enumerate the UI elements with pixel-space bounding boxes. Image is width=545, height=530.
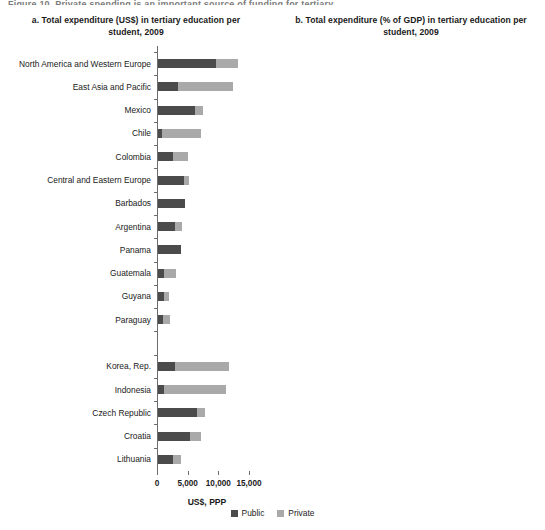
- y-tick: [154, 355, 158, 356]
- chart-legend: PublicPrivate: [0, 508, 545, 518]
- x-tick: [218, 471, 219, 475]
- bar-row: Mexico: [157, 106, 257, 115]
- y-tick: [154, 52, 158, 53]
- y-tick: [154, 145, 158, 146]
- category-label: East Asia and Pacific: [73, 82, 151, 91]
- y-tick: [154, 285, 158, 286]
- bar-segment-public: [158, 106, 195, 115]
- category-label: Guatemala: [110, 269, 151, 278]
- bar-row: Paraguay: [157, 315, 257, 324]
- y-tick: [154, 308, 158, 309]
- y-tick: [154, 424, 158, 425]
- x-tick: [249, 471, 250, 475]
- x-tick-label: 0: [155, 479, 160, 488]
- y-tick: [154, 378, 158, 379]
- category-label: Czech Republic: [92, 408, 151, 417]
- figure-container: Figure 10. Private spending is an import…: [0, 0, 545, 530]
- y-tick: [154, 168, 158, 169]
- category-label: Croatia: [124, 432, 151, 441]
- y-tick: [154, 401, 158, 402]
- legend-item-private: Private: [277, 508, 314, 518]
- bar-row: Korea, Rep.: [157, 362, 257, 371]
- category-label: Korea, Rep.: [106, 362, 151, 371]
- bar-segment-private: [173, 455, 181, 464]
- chart-a-title: a. Total expenditure (US$) in tertiary e…: [18, 14, 254, 39]
- y-tick: [154, 75, 158, 76]
- bar-row: Lithuania: [157, 455, 257, 464]
- bar-segment-private: [162, 129, 200, 138]
- category-label: Panama: [120, 245, 151, 254]
- category-label: Guyana: [122, 292, 151, 301]
- bar-row: Czech Republic: [157, 408, 257, 417]
- x-tick: [188, 471, 189, 475]
- bar-segment-private: [164, 292, 168, 301]
- y-tick: [154, 99, 158, 100]
- chart-b-title: b. Total expenditure (% of GDP) in terti…: [288, 14, 534, 39]
- y-tick: [154, 238, 158, 239]
- bar-segment-private: [184, 176, 189, 185]
- bar-row: Central and Eastern Europe: [157, 176, 257, 185]
- category-label: Colombia: [116, 152, 151, 161]
- bar-segment-public: [158, 59, 216, 68]
- x-tick-label: 5,000: [177, 479, 198, 488]
- y-tick: [154, 192, 158, 193]
- bar-row: Barbados: [157, 199, 257, 208]
- bar-segment-private: [197, 408, 204, 417]
- category-label: Argentina: [115, 222, 151, 231]
- x-tick: [157, 471, 158, 475]
- category-label: Chile: [132, 129, 151, 138]
- category-label: Barbados: [115, 199, 151, 208]
- category-label: Central and Eastern Europe: [47, 176, 151, 185]
- legend-item-public: Public: [231, 508, 265, 518]
- bar-segment-private: [164, 385, 226, 394]
- chart-a-plot-area: 05,00010,00015,000North America and West…: [157, 46, 257, 471]
- bar-segment-private: [216, 59, 238, 68]
- y-tick: [154, 448, 158, 449]
- bar-row: North America and Western Europe: [157, 59, 257, 68]
- category-label: North America and Western Europe: [19, 59, 151, 68]
- bar-row: Guatemala: [157, 269, 257, 278]
- category-label: Indonesia: [115, 385, 151, 394]
- bar-segment-private: [190, 432, 202, 441]
- legend-label: Private: [288, 508, 314, 518]
- x-tick-label: 15,000: [236, 479, 261, 488]
- chart-panel-b: b. Total expenditure (% of GDP) in terti…: [272, 0, 545, 530]
- y-tick: [154, 262, 158, 263]
- bar-segment-private: [173, 152, 189, 161]
- bar-segment-private: [164, 269, 176, 278]
- bar-segment-private: [175, 362, 229, 371]
- bar-row: East Asia and Pacific: [157, 82, 257, 91]
- bar-segment-public: [158, 408, 197, 417]
- y-tick: [154, 215, 158, 216]
- category-label: Lithuania: [117, 455, 151, 464]
- bar-segment-private: [195, 106, 203, 115]
- bar-row: Argentina: [157, 222, 257, 231]
- y-tick: [154, 122, 158, 123]
- bar-segment-public: [158, 82, 178, 91]
- bar-row: Colombia: [157, 152, 257, 161]
- bar-row: Panama: [157, 245, 257, 254]
- bar-segment-public: [158, 455, 173, 464]
- y-tick: [154, 331, 158, 332]
- bar-segment-public: [158, 245, 181, 254]
- bar-segment-public: [158, 152, 173, 161]
- chart-panel-a: a. Total expenditure (US$) in tertiary e…: [0, 0, 272, 530]
- bar-segment-private: [175, 222, 181, 231]
- bar-segment-public: [158, 362, 175, 371]
- bar-row: Croatia: [157, 432, 257, 441]
- bar-segment-public: [158, 199, 185, 208]
- bar-segment-public: [158, 432, 190, 441]
- chart-a-x-axis-title: US$, PPP: [157, 497, 257, 507]
- bar-segment-private: [178, 82, 233, 91]
- bar-row: Indonesia: [157, 385, 257, 394]
- category-label: Mexico: [124, 106, 151, 115]
- legend-swatch-public-icon: [231, 510, 238, 517]
- bar-segment-public: [158, 222, 175, 231]
- legend-label: Public: [242, 508, 265, 518]
- legend-swatch-private-icon: [277, 510, 284, 517]
- bar-segment-public: [158, 176, 184, 185]
- bar-segment-private: [163, 315, 170, 324]
- category-label: Paraguay: [115, 315, 151, 324]
- bar-row: Chile: [157, 129, 257, 138]
- bar-row: Guyana: [157, 292, 257, 301]
